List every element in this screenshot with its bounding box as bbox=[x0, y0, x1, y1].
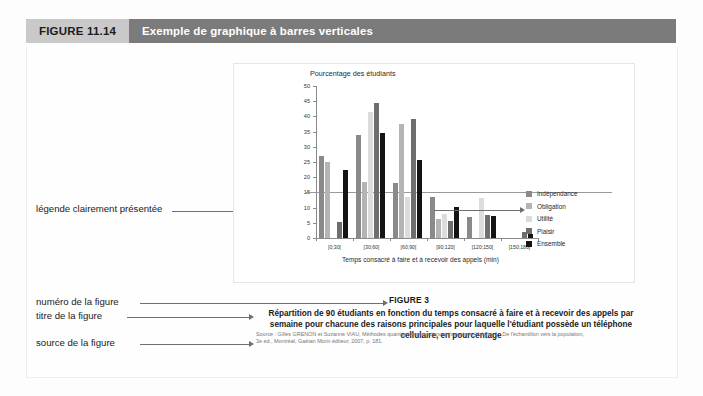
y-tick-label: 50 bbox=[300, 83, 310, 89]
figure-number-label: FIGURE 11.14 bbox=[39, 25, 116, 37]
bar bbox=[368, 112, 373, 238]
bar bbox=[399, 124, 404, 238]
figure-title-box: Exemple de graphique à barres verticales bbox=[129, 19, 676, 43]
bar bbox=[430, 197, 435, 238]
bar bbox=[491, 216, 496, 238]
bar bbox=[356, 135, 361, 238]
x-tick-label: [90;120[ bbox=[436, 244, 455, 250]
legend-pointer-line bbox=[434, 210, 520, 211]
legend-swatch-icon bbox=[526, 241, 532, 247]
bar-chart: Pourcentage des étudiants 05101520253035… bbox=[233, 63, 635, 283]
legend-label: Utilité bbox=[537, 215, 553, 222]
legend-item[interactable]: Ensemble bbox=[526, 240, 578, 247]
y-tick-label: 20 bbox=[300, 174, 310, 180]
bar-group bbox=[467, 86, 497, 238]
x-tick-mark bbox=[501, 238, 502, 241]
bar bbox=[380, 133, 385, 238]
annotation-figure-number: numéro de la figure bbox=[36, 296, 119, 307]
legend-item[interactable]: Plaisir bbox=[526, 228, 578, 235]
legend-label: Indépendance bbox=[537, 190, 578, 197]
plot-area bbox=[316, 86, 538, 238]
y-tick-label: 45 bbox=[300, 98, 310, 104]
bar bbox=[448, 221, 453, 238]
legend-label: Obligation bbox=[537, 203, 566, 210]
leader-line-figure-source bbox=[140, 344, 249, 345]
legend-item[interactable]: Obligation bbox=[526, 203, 578, 210]
leader-line-figure-title bbox=[127, 317, 249, 318]
y-tick-label: 40 bbox=[300, 113, 310, 119]
x-tick-label: [30;60[ bbox=[364, 244, 380, 250]
bar bbox=[442, 214, 447, 238]
arrow-head-figure-number-icon bbox=[383, 300, 388, 306]
bar bbox=[417, 160, 422, 238]
bar bbox=[374, 103, 379, 238]
bar bbox=[325, 162, 330, 238]
x-tick-label: [120;150[ bbox=[472, 244, 494, 250]
bar bbox=[319, 156, 324, 238]
leader-line-figure-number bbox=[140, 303, 383, 304]
caption-source-line1: Source : Gilles GRENON et Suzanne VIAU, … bbox=[256, 331, 656, 338]
caption-figure-label: FIGURE 3 bbox=[389, 295, 429, 305]
bar bbox=[337, 222, 342, 238]
annotation-figure-source: source de la figure bbox=[36, 337, 115, 348]
bar bbox=[411, 119, 416, 238]
y-axis-title: Pourcentage des étudiants bbox=[310, 69, 396, 78]
bar bbox=[436, 219, 441, 238]
y-tick-label: 5 bbox=[300, 220, 310, 226]
caption-source: Source : Gilles GRENON et Suzanne VIAU, … bbox=[256, 331, 656, 346]
x-tick-mark bbox=[353, 238, 354, 241]
figure-title-label: Exemple de graphique à barres verticales bbox=[142, 25, 373, 37]
bar-group bbox=[393, 86, 423, 238]
y-tick-label: 30 bbox=[300, 144, 310, 150]
legend-label: Plaisir bbox=[537, 228, 554, 235]
legend-label: Ensemble bbox=[537, 240, 565, 247]
legend-swatch-icon bbox=[526, 216, 532, 222]
bar-group bbox=[430, 86, 460, 238]
figure-header: FIGURE 11.14 Exemple de graphique à barr… bbox=[26, 19, 676, 43]
bar bbox=[467, 217, 472, 238]
annotation-legend: légende clairement présentée bbox=[36, 203, 162, 214]
arrow-head-figure-source-icon bbox=[249, 341, 254, 347]
bar bbox=[393, 183, 398, 238]
legend-item[interactable]: Indépendance bbox=[526, 190, 578, 197]
x-tick-mark bbox=[464, 238, 465, 241]
bar-group bbox=[356, 86, 386, 238]
legend-pointer-arrow-icon bbox=[520, 207, 525, 213]
x-tick-mark bbox=[390, 238, 391, 241]
arrow-head-figure-title-icon bbox=[249, 314, 254, 320]
bar-group bbox=[319, 86, 349, 238]
x-tick-mark bbox=[427, 238, 428, 241]
legend-swatch-icon bbox=[526, 228, 532, 234]
figure-page: FIGURE 11.14 Exemple de graphique à barr… bbox=[0, 0, 703, 396]
x-axis-title: Temps consacré à faire et à recevoir des… bbox=[342, 256, 499, 263]
bar bbox=[454, 207, 459, 238]
figure-number-box: FIGURE 11.14 bbox=[26, 19, 129, 43]
x-tick-mark bbox=[316, 238, 317, 241]
chart-legend: IndépendanceObligationUtilitéPlaisirEnse… bbox=[526, 190, 578, 253]
y-tick-label: 10 bbox=[300, 205, 310, 211]
annotation-figure-title: titre de la figure bbox=[36, 310, 102, 321]
caption-source-line2: 3e éd., Montréal, Gaëtan Morin éditeur, … bbox=[256, 338, 656, 345]
legend-swatch-icon bbox=[526, 203, 532, 209]
x-tick-label: [0;30[ bbox=[328, 244, 341, 250]
bar bbox=[362, 182, 367, 238]
y-tick-label: 25 bbox=[300, 159, 310, 165]
legend-swatch-icon bbox=[526, 191, 532, 197]
y-tick-label: 0 bbox=[300, 235, 310, 241]
legend-item[interactable]: Utilité bbox=[526, 215, 578, 222]
x-tick-label: [60;90[ bbox=[401, 244, 417, 250]
bar bbox=[485, 215, 490, 238]
y-tick-label: 35 bbox=[300, 129, 310, 135]
bar bbox=[343, 170, 348, 238]
bar bbox=[405, 197, 410, 238]
bar bbox=[479, 198, 484, 238]
